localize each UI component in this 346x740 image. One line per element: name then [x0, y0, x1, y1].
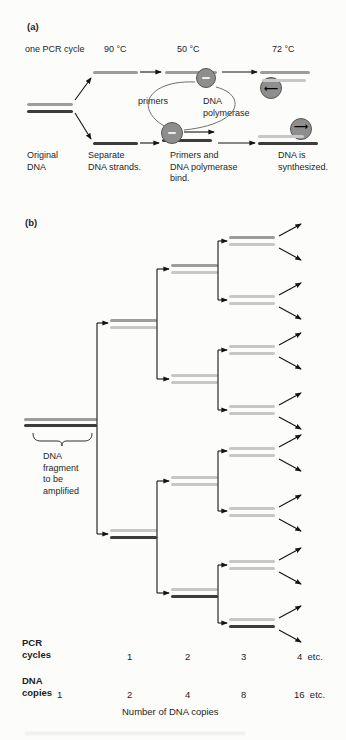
dna-strand: [110, 326, 157, 329]
scan-artifact: [25, 732, 245, 735]
flow-arrow: [279, 283, 301, 295]
dna-strand: [229, 454, 275, 457]
flow-arrow: [279, 459, 301, 471]
step-dna-synthesized: DNA issynthesized.: [278, 150, 328, 173]
dna-strand: [171, 595, 218, 598]
pcr-cycle-count: 3: [241, 651, 246, 662]
flow-arrow: [279, 248, 301, 260]
dna-strand: [229, 447, 275, 450]
flow-arrow: [279, 548, 301, 560]
dna-copy-count: 2: [127, 689, 132, 700]
dna-copy-count: 4: [185, 689, 190, 700]
primer-icon: [202, 77, 210, 80]
dna-strand: [260, 71, 310, 74]
flow-arrow: [279, 417, 301, 429]
dna-strand: [229, 236, 275, 239]
pcr-cycles-label: PCRcycles: [22, 637, 51, 660]
flow-arrow: [279, 606, 301, 618]
primers-label: primers: [138, 96, 168, 108]
dna-strand: [262, 79, 306, 82]
step-primers-bind: Primers andDNA polymerasebind.: [170, 150, 238, 185]
flow-arrow: [75, 78, 91, 100]
brace: [33, 433, 92, 446]
pcr-diagram-page: (a) one PCR cycle 90 °C 50 °C 72 °C prim…: [0, 0, 346, 740]
flow-arrow: [279, 630, 301, 642]
flow-arrow: [75, 113, 91, 139]
dna-strand: [229, 302, 275, 305]
fragment-label: DNAfragmentto beamplified: [43, 451, 79, 497]
panel-b-tag: (b): [25, 217, 37, 229]
dna-strand: [24, 418, 97, 421]
dna-strand: [229, 412, 275, 415]
dna-strand: [229, 560, 275, 563]
synthesis-direction-right-icon: ⟶: [291, 121, 311, 132]
dna-strand: [171, 374, 218, 377]
flow-arrow: [279, 224, 301, 236]
flow-arrow: [279, 495, 301, 507]
polymerase-icon: [196, 68, 216, 88]
pcr-cycle-count: 1: [127, 651, 132, 662]
temp-50c-label: 50 °C: [177, 44, 200, 56]
dna-strand: [171, 476, 218, 479]
flow-arrow: [279, 435, 301, 447]
dna-strand: [27, 110, 73, 113]
flow-arrow: [279, 333, 301, 345]
temp-90c-label: 90 °C: [104, 44, 127, 56]
pcr-cycle-count: 4 etc.: [297, 651, 323, 662]
dna-strand: [229, 618, 275, 621]
dna-strand: [110, 319, 157, 322]
dna-strand: [229, 507, 275, 510]
dna-strand: [229, 514, 275, 517]
dna-strand: [229, 567, 275, 570]
dna-strand: [229, 625, 275, 628]
dna-copy-count: 8: [241, 689, 246, 700]
step-original-dna: OriginalDNA: [27, 150, 58, 173]
dna-strand: [258, 135, 304, 138]
panel-a-tag: (a): [27, 21, 39, 33]
number-of-dna-copies-caption: Number of DNA copies: [122, 706, 219, 718]
dna-strand: [171, 264, 218, 267]
dna-strand: [110, 529, 157, 532]
dna-strand: [171, 483, 218, 486]
temp-72c-label: 72 °C: [272, 44, 295, 56]
polymerase-label: DNApolymerase: [203, 96, 267, 119]
flow-arrow: [279, 357, 301, 369]
dna-strand: [229, 295, 275, 298]
synthesis-direction-left-icon: ⟵: [261, 83, 281, 94]
dna-strand: [229, 243, 275, 246]
primer-icon: [168, 132, 176, 135]
dna-copy-count: 1: [57, 689, 62, 700]
dna-strand: [171, 588, 218, 591]
flow-arrow: [279, 307, 301, 319]
flow-arrow: [279, 519, 301, 531]
dna-strand: [27, 103, 73, 106]
dna-strand: [229, 345, 275, 348]
dna-strand: [258, 142, 318, 145]
one-pcr-cycle-label: one PCR cycle: [25, 44, 85, 56]
dna-copies-label: DNAcopies: [22, 675, 52, 698]
pcr-cycle-count: 2: [185, 651, 190, 662]
dna-copy-count: 16 etc.: [294, 689, 325, 700]
dna-strand: [229, 405, 275, 408]
dna-strand: [93, 71, 138, 74]
dna-strand: [110, 536, 157, 539]
dna-strand: [24, 424, 97, 427]
flow-arrow: [279, 393, 301, 405]
step-separate-strands: SeparateDNA strands.: [88, 150, 141, 173]
flow-arrow: [279, 572, 301, 584]
dna-strand: [93, 142, 138, 145]
dna-strand: [229, 352, 275, 355]
polymerase-icon: [161, 122, 183, 144]
dna-strand: [171, 271, 218, 274]
dna-strand: [171, 381, 218, 384]
